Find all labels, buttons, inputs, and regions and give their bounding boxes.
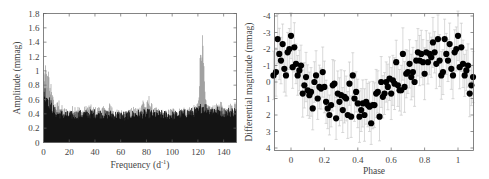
y-tick-label: -4 xyxy=(263,11,271,21)
data-point xyxy=(440,69,446,75)
y-tick-label: 1 xyxy=(266,94,271,104)
data-point xyxy=(465,62,471,68)
x-tick-label: 40 xyxy=(90,147,100,157)
x-tick-label: 120 xyxy=(191,147,205,157)
y-tick-label: 0 xyxy=(35,138,40,148)
data-point xyxy=(401,84,407,90)
data-point xyxy=(291,44,297,50)
data-point xyxy=(303,74,309,80)
data-point xyxy=(313,72,319,78)
y-tick-label: 0.4 xyxy=(28,109,40,119)
data-point xyxy=(333,115,339,121)
data-point xyxy=(280,41,286,47)
data-point xyxy=(385,84,391,90)
left-x-axis-label: Frequency (d-1) xyxy=(111,158,170,171)
data-point xyxy=(281,66,287,72)
y-tick-label: -2 xyxy=(263,44,271,54)
x-tick-label: 20 xyxy=(65,147,75,157)
y-tick-label: 3 xyxy=(266,127,271,137)
figure: 00.20.40.60.811.21.41.61.8 0204060801001… xyxy=(0,0,489,179)
data-point xyxy=(375,89,381,95)
data-point xyxy=(393,59,399,65)
data-point xyxy=(447,41,453,47)
data-point xyxy=(350,72,356,78)
x-tick-label: 0 xyxy=(289,155,294,165)
right-x-axis-label: Phase xyxy=(363,166,385,176)
amplitude-spectrum-plot xyxy=(44,35,236,142)
data-point xyxy=(410,69,416,75)
data-point xyxy=(328,102,334,108)
data-point xyxy=(371,102,377,108)
y-tick-label: 1.4 xyxy=(28,37,40,47)
x-tick-label: 0.6 xyxy=(386,155,398,165)
data-point xyxy=(346,81,352,87)
data-point xyxy=(308,89,314,95)
y-tick-label: 1.2 xyxy=(28,52,39,62)
data-point xyxy=(458,44,464,50)
data-point xyxy=(278,57,284,63)
data-point xyxy=(445,57,451,63)
x-tick-label: 80 xyxy=(142,147,152,157)
y-tick-label: -1 xyxy=(263,61,271,71)
data-point xyxy=(283,72,289,78)
data-point xyxy=(376,114,382,120)
data-point xyxy=(340,107,346,113)
y-tick-label: 0.6 xyxy=(28,95,40,105)
data-point xyxy=(450,72,456,78)
y-tick-label: 1 xyxy=(35,66,40,76)
amplitude-spectrum-panel: 00.20.40.60.811.21.41.61.8 0204060801001… xyxy=(12,9,237,172)
y-tick-label: 0 xyxy=(266,77,271,87)
data-point xyxy=(326,112,332,118)
y-tick-label: 0.2 xyxy=(28,123,39,133)
data-point xyxy=(275,36,281,42)
data-point xyxy=(348,114,354,120)
data-point xyxy=(381,90,387,96)
x-tick-label: 140 xyxy=(217,147,231,157)
data-point xyxy=(298,62,304,68)
x-tick-label: 0.8 xyxy=(419,155,431,165)
x-tick-label: 0 xyxy=(41,147,46,157)
data-point xyxy=(273,69,279,75)
data-point xyxy=(455,33,461,39)
x-tick-label: 60 xyxy=(116,147,126,157)
data-point xyxy=(311,79,317,85)
data-point xyxy=(388,90,394,96)
y-tick-label: 1.6 xyxy=(28,23,40,33)
data-point xyxy=(467,90,473,96)
x-tick-label: 0.4 xyxy=(352,155,364,165)
data-point xyxy=(432,49,438,55)
y-tick-label: 4 xyxy=(266,143,271,153)
data-point xyxy=(443,51,449,57)
y-tick-label: -3 xyxy=(263,28,271,38)
data-point xyxy=(288,33,294,39)
data-point xyxy=(320,69,326,75)
phase-diagram-panel: -4-3-2-101234 00.20.40.60.81 Differentia… xyxy=(244,11,476,176)
data-point xyxy=(470,74,476,80)
data-point xyxy=(321,84,327,90)
y-tick-label: 2 xyxy=(266,110,271,120)
data-point xyxy=(406,61,412,67)
data-point xyxy=(331,81,337,87)
data-point xyxy=(361,112,367,118)
left-y-axis-label: Amplitude (mmag) xyxy=(12,41,23,114)
x-tick-label: 100 xyxy=(165,147,179,157)
x-tick-label: 0.2 xyxy=(319,155,330,165)
data-point xyxy=(310,105,316,111)
x-tick-label: 1 xyxy=(456,155,461,165)
data-point xyxy=(343,95,349,101)
data-point xyxy=(448,66,454,72)
data-point xyxy=(400,51,406,57)
data-point xyxy=(437,57,443,63)
y-tick-label: 0.8 xyxy=(28,80,40,90)
y-tick-label: 1.8 xyxy=(28,9,40,19)
data-point xyxy=(435,36,441,42)
data-point xyxy=(368,120,374,126)
data-point xyxy=(422,71,428,77)
data-point xyxy=(315,95,321,101)
data-point xyxy=(353,89,359,95)
data-point xyxy=(276,51,282,57)
data-point xyxy=(442,36,448,42)
data-point xyxy=(336,99,342,105)
right-y-axis-label: Differential magnitude (mmag) xyxy=(244,22,255,141)
data-point xyxy=(411,79,417,85)
